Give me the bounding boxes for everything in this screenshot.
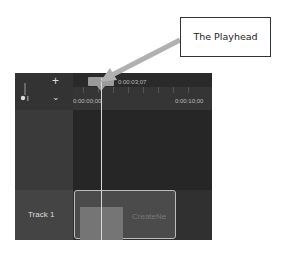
callout-box: The Playhead xyxy=(180,17,271,57)
callout-label: The Playhead xyxy=(181,31,270,42)
